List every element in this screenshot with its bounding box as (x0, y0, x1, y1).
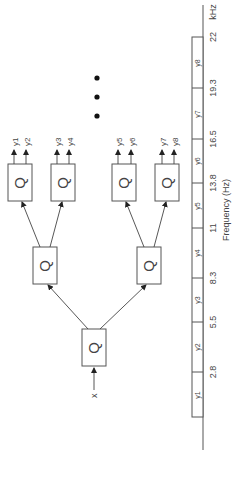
band-label-y5: y5 (194, 202, 202, 210)
edge-l2l-a (22, 202, 40, 247)
edge-l2r-b (154, 202, 166, 247)
q-node-icon: Q (36, 260, 53, 272)
wavelet-tree-diagram: x Q Q Q Q Q Q Q (0, 0, 236, 490)
output-label-y3: y3 (54, 137, 63, 146)
output-label-y2: y2 (23, 137, 32, 146)
tick-label: 2.8 (208, 366, 218, 379)
output-label-y4: y4 (66, 137, 75, 146)
band-label-y8: y8 (194, 59, 202, 67)
band-label-y7: y7 (194, 110, 202, 118)
band-label-y1: y1 (194, 391, 202, 399)
q-node-icon: Q (115, 177, 132, 189)
tick-label: 16.5 (208, 130, 218, 148)
output-label-y1: y1 (11, 137, 20, 146)
input-arrow: x (89, 368, 99, 398)
q-node-icon: Q (140, 260, 157, 272)
tree-node-l2-right: Q (137, 247, 161, 284)
output-label-y5: y5 (115, 137, 124, 146)
q-node-icon: Q (11, 177, 28, 189)
tick-label: 8.3 (208, 272, 218, 285)
output-label-y6: y6 (128, 137, 137, 146)
band-label-y2: y2 (194, 343, 202, 351)
ellipsis-dots (94, 75, 99, 118)
band-label-y3: y3 (194, 296, 202, 304)
tick-label: 13.8 (208, 174, 218, 192)
output-label-y8: y8 (171, 137, 180, 146)
output-label-y7: y7 (159, 137, 168, 146)
tree-node-l3-4: Q (155, 164, 179, 201)
edge-l2l-b (50, 202, 62, 247)
output-labels: y1 y2 y3 y4 y5 y6 y7 y8 (11, 137, 180, 146)
tree-node-l3-1: Q (8, 164, 32, 201)
tree-node-l2-left: Q (33, 247, 57, 284)
input-label: x (89, 393, 99, 398)
edge-l2r-a (126, 202, 144, 247)
q-node-icon: Q (85, 342, 102, 354)
tick-label: 11 (208, 223, 218, 232)
tick-label: 19.3 (208, 79, 218, 97)
edge-root-right (100, 285, 146, 329)
q-node-icon: Q (158, 177, 175, 189)
tick-label: 22 (208, 32, 218, 42)
tree-node-root: Q (82, 329, 106, 366)
tick-label: 5.5 (208, 316, 218, 329)
band-label-y4: y4 (194, 249, 202, 257)
unit-label: kHz (208, 4, 218, 20)
output-arrows (14, 150, 174, 164)
q-node-icon: Q (54, 177, 71, 189)
edge-root-left (48, 285, 88, 329)
tree-node-l3-3: Q (112, 164, 136, 201)
frequency-axis: y1 y2 y3 y4 y5 y6 y7 y8 2.8 5.5 8.3 11 1… (192, 4, 231, 450)
axis-title: Frequency (Hz) (221, 179, 231, 241)
tree-node-l3-2: Q (51, 164, 75, 201)
band-container (192, 37, 203, 417)
band-label-y6: y6 (194, 157, 202, 165)
